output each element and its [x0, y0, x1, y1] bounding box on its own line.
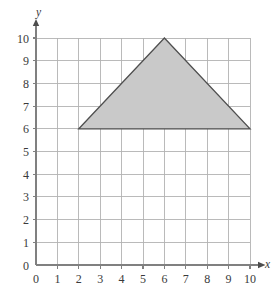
x-axis-tick-label: 9 [226, 272, 232, 286]
y-axis-tick-label: 1 [23, 236, 29, 250]
y-axis-tick-label: 4 [23, 168, 29, 182]
x-axis-tick-label: 3 [97, 272, 103, 286]
y-axis-tick-label: 9 [23, 54, 29, 68]
y-axis-tick-label: 3 [23, 190, 29, 204]
x-axis-tick-label: 2 [76, 272, 82, 286]
x-axis-tick-label: 1 [54, 272, 60, 286]
y-axis-tick-label: 6 [23, 122, 29, 136]
x-axis-tick-label: 7 [183, 272, 189, 286]
x-axis-tick-label: 0 [33, 272, 39, 286]
x-axis-tick-label: 5 [140, 272, 146, 286]
coordinate-plane: 012345678910 012345678910 x y [0, 0, 272, 306]
x-axis-tick-label: 6 [161, 272, 167, 286]
y-axis-tick-label: 0 [23, 259, 29, 273]
x-axis-label: x [264, 258, 271, 270]
y-axis-tick-label: 2 [23, 213, 29, 227]
y-axis-tick-label: 10 [17, 32, 29, 46]
coordinate-grid-figure: 012345678910 012345678910 x y [0, 0, 272, 306]
y-axis-tick-label: 5 [23, 145, 29, 159]
y-axis-tick-label: 8 [23, 77, 29, 91]
x-axis-tick-label: 4 [119, 272, 125, 286]
y-axis-label: y [35, 6, 42, 19]
x-axis-tick-label: 10 [244, 272, 256, 286]
y-axis-tick-label: 7 [23, 100, 29, 114]
x-axis-tick-label: 8 [204, 272, 210, 286]
figure-background [0, 0, 272, 306]
